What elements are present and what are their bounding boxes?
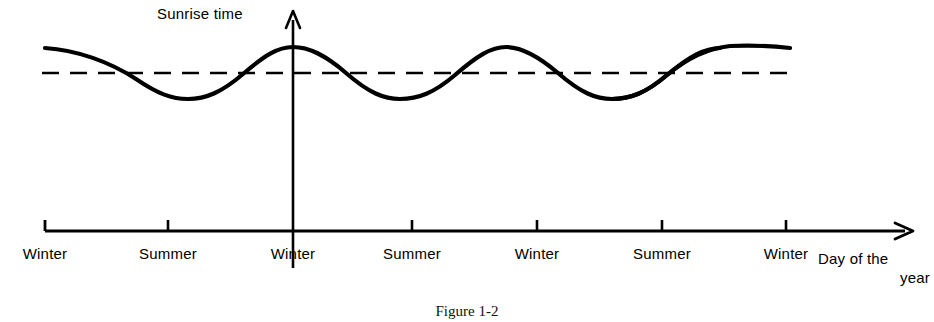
x-tick-label-winter-1: Winter — [1, 245, 89, 262]
y-axis-title: Sunrise time — [157, 5, 243, 22]
x-tick-label-winter-2: Winter — [249, 245, 337, 262]
x-tick-label-summer-2: Summer — [362, 245, 462, 262]
x-tick-label-winter-4: Winter — [742, 245, 830, 262]
x-axis-title: Day of the year — [818, 249, 930, 287]
sunrise-time-chart — [0, 0, 934, 322]
x-tick-label-summer-1: Summer — [118, 245, 218, 262]
x-axis-title-line2: year — [818, 268, 934, 287]
figure-caption: Figure 1-2 — [0, 303, 934, 322]
x-tick-label-summer-3: Summer — [612, 245, 712, 262]
x-tick-label-winter-3: Winter — [493, 245, 581, 262]
figure-container: Sunrise time Day of the year Winter Summ… — [0, 0, 934, 322]
